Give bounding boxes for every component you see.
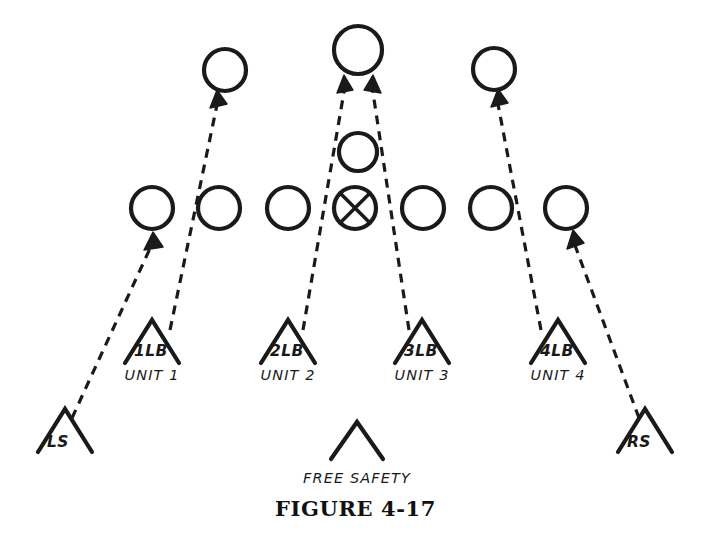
play-diagram: 1LB UNIT 1 2LB UNIT 2 3LB UNIT 3 4LB UNI…	[0, 0, 711, 544]
back-players-layer	[204, 26, 515, 171]
los-player-1[interactable]	[131, 187, 173, 229]
coverage-unit-3[interactable]: 3LB UNIT 3	[394, 320, 449, 383]
mid-player-center[interactable]	[339, 133, 377, 171]
coverage-unit-4[interactable]: 4LB UNIT 4	[530, 320, 585, 383]
unit-1-label: UNIT 1	[124, 367, 179, 383]
los-player-2[interactable]	[198, 187, 240, 229]
chevron-rs-label: RS	[627, 433, 651, 451]
coverage-unit-2[interactable]: 2LB UNIT 2	[260, 320, 315, 383]
safeties-layer: LS RS FREE SAFETY	[38, 409, 672, 486]
arrowhead-3lb	[364, 75, 381, 93]
chevron-1lb-label: 1LB	[134, 342, 168, 360]
unit-3-label: UNIT 3	[394, 367, 449, 383]
chevron-2lb-label: 2LB	[270, 342, 304, 360]
los-player-7[interactable]	[545, 187, 587, 229]
figure-caption: FIGURE 4-17	[0, 496, 711, 521]
back-player-center[interactable]	[334, 26, 382, 74]
line-of-scrimmage-layer	[131, 187, 587, 229]
los-player-center-snapper[interactable]	[334, 187, 376, 229]
unit-4-label: UNIT 4	[530, 367, 585, 383]
chevron-4lb-label: 4LB	[539, 342, 574, 360]
back-player-right[interactable]	[473, 48, 515, 90]
route-rs-to-los7	[573, 240, 639, 418]
chevron-3lb-label: 3LB	[404, 342, 438, 360]
route-ls-to-los1	[72, 242, 153, 418]
unit-2-label: UNIT 2	[260, 367, 315, 383]
back-player-left[interactable]	[204, 49, 246, 91]
free-safety-label: FREE SAFETY	[303, 470, 411, 486]
arrowhead-rs	[567, 230, 584, 249]
figure-container: 1LB UNIT 1 2LB UNIT 2 3LB UNIT 3 4LB UNI…	[0, 0, 711, 544]
arrowhead-2lb	[337, 75, 353, 93]
arrowhead-ls	[144, 232, 163, 250]
los-player-3[interactable]	[267, 187, 309, 229]
los-player-5[interactable]	[402, 187, 444, 229]
coverage-units-layer: 1LB UNIT 1 2LB UNIT 2 3LB UNIT 3 4LB UNI…	[124, 320, 585, 383]
free-safety[interactable]: FREE SAFETY	[303, 422, 411, 486]
chevron-free-safety-marker	[331, 422, 383, 459]
los-player-6[interactable]	[470, 187, 512, 229]
left-safety[interactable]: LS	[38, 409, 92, 452]
right-safety[interactable]: RS	[618, 409, 672, 452]
chevron-ls-label: LS	[47, 433, 69, 451]
